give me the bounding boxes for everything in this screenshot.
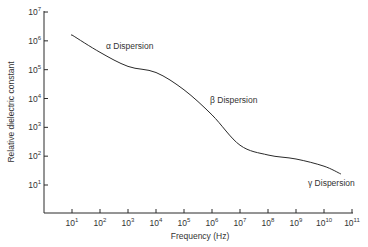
y-tick-label: 102 — [28, 150, 41, 161]
y-tick-label: 107 — [28, 6, 41, 17]
x-axis-ticks: 10110210310410510610710810910101011 — [66, 209, 361, 228]
x-tick-label: 101 — [66, 217, 79, 228]
x-tick-label: 106 — [206, 217, 219, 228]
x-tick-label: 107 — [234, 217, 247, 228]
y-tick-label: 103 — [28, 121, 41, 132]
y-axis-title: Relative dielectric constant — [6, 61, 16, 163]
y-tick-label: 105 — [28, 64, 41, 75]
y-tick-label: 104 — [28, 93, 41, 104]
dielectric-chart: 101102103104105106107 101102103104105106… — [0, 0, 368, 247]
alpha-dispersion-label: α Dispersion — [106, 41, 154, 51]
gamma-dispersion-label: γ Dispersion — [308, 178, 355, 188]
x-tick-label: 1011 — [344, 217, 360, 228]
x-tick-label: 104 — [150, 217, 163, 228]
y-tick-label: 106 — [28, 35, 41, 46]
x-tick-label: 105 — [178, 217, 191, 228]
x-tick-label: 103 — [122, 217, 135, 228]
x-tick-label: 108 — [262, 217, 275, 228]
y-tick-label: 101 — [28, 179, 41, 190]
x-tick-label: 102 — [94, 217, 107, 228]
axes — [44, 11, 353, 213]
x-tick-label: 1010 — [316, 217, 333, 228]
x-tick-label: 109 — [290, 217, 303, 228]
beta-dispersion-label: β Dispersion — [210, 95, 258, 105]
y-axis-ticks: 101102103104105106107 — [28, 6, 48, 190]
dielectric-curve — [71, 35, 341, 174]
x-axis-title: Frequency (Hz) — [171, 231, 230, 241]
